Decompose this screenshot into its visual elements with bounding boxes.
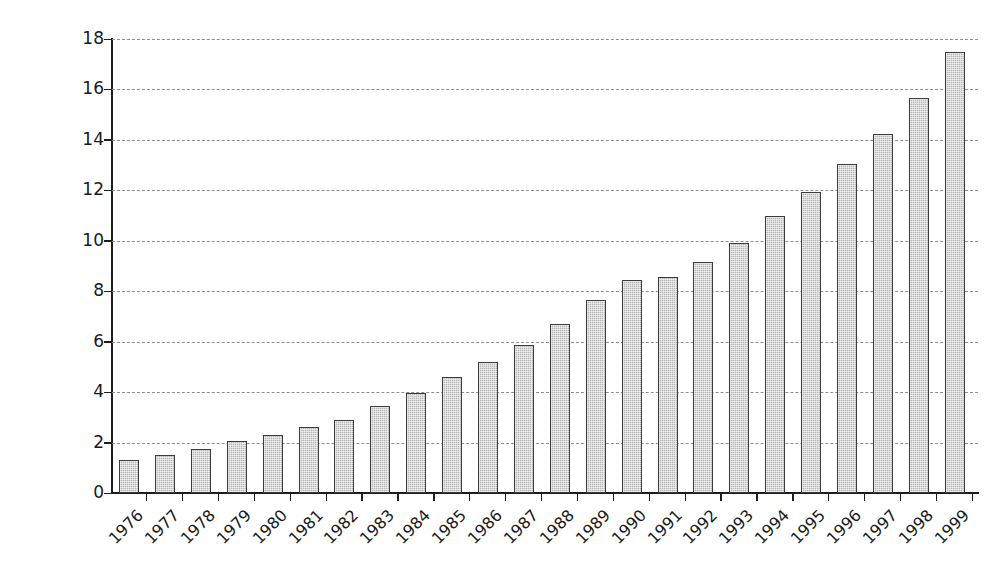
x-tick-mark-1988 [577, 493, 578, 501]
bar-1998[interactable] [909, 98, 929, 493]
x-tick-mark-1983 [397, 493, 398, 501]
bar-1993[interactable] [729, 243, 749, 493]
x-tick-mark-1995 [828, 493, 829, 501]
bar-1995[interactable] [801, 192, 821, 493]
bar-1982[interactable] [334, 420, 354, 493]
bar-1992[interactable] [693, 262, 713, 493]
y-tick-label-12: 12 [60, 181, 104, 198]
bar-1991[interactable] [658, 277, 678, 493]
x-tick-mark-1979 [254, 493, 255, 501]
bar-1980[interactable] [263, 435, 283, 493]
y-tick-mark-6 [104, 341, 112, 343]
y-tick-mark-4 [104, 392, 112, 394]
plot-area [112, 39, 978, 493]
x-tick-mark-1989 [613, 493, 614, 501]
bar-1987[interactable] [514, 345, 534, 493]
y-tick-mark-0 [104, 493, 112, 495]
y-axis-tick-labels: 024681012141618 [50, 0, 104, 573]
y-tick-mark-12 [104, 190, 112, 192]
x-tick-mark-1976 [146, 493, 147, 501]
y-tick-label-8: 8 [60, 282, 104, 299]
y-tick-label-0: 0 [60, 484, 104, 501]
x-tick-mark-1985 [469, 493, 470, 501]
x-tick-mark-1977 [182, 493, 183, 501]
y-tick-label-6: 6 [60, 333, 104, 350]
y-tick-mark-10 [104, 240, 112, 242]
bar-1990[interactable] [622, 280, 642, 493]
x-tick-mark-1999 [972, 493, 973, 501]
x-tick-mark-1980 [290, 493, 291, 501]
bar-1984[interactable] [406, 393, 426, 493]
bar-1985[interactable] [442, 377, 462, 493]
bar-1976[interactable] [119, 460, 139, 493]
y-tick-label-14: 14 [60, 131, 104, 148]
bar-1999[interactable] [945, 52, 965, 493]
y-tick-mark-8 [104, 291, 112, 293]
x-tick-mark-1992 [720, 493, 721, 501]
bar-1989[interactable] [586, 300, 606, 493]
x-tick-mark-1990 [649, 493, 650, 501]
y-tick-mark-16 [104, 89, 112, 91]
y-tick-label-2: 2 [60, 434, 104, 451]
x-tick-mark-1982 [361, 493, 362, 501]
y-tick-label-16: 16 [60, 80, 104, 97]
bar-1986[interactable] [478, 362, 498, 493]
y-tick-mark-18 [104, 39, 112, 41]
bar-1988[interactable] [550, 324, 570, 493]
bar-1977[interactable] [155, 455, 175, 493]
y-tick-mark-14 [104, 139, 112, 141]
bar-1979[interactable] [227, 441, 247, 493]
x-tick-mark-1997 [900, 493, 901, 501]
y-tick-label-4: 4 [60, 383, 104, 400]
bar-1978[interactable] [191, 449, 211, 493]
bar-chart-figure: Billions of liters per year 024681012141… [0, 0, 1001, 573]
y-tick-mark-2 [104, 442, 112, 444]
x-tick-mark-1993 [756, 493, 757, 501]
bar-1997[interactable] [873, 134, 893, 493]
bar-1983[interactable] [370, 406, 390, 493]
x-tick-mark-1981 [326, 493, 327, 501]
x-tick-mark-1984 [433, 493, 434, 501]
x-tick-mark-1996 [864, 493, 865, 501]
bar-1996[interactable] [837, 164, 857, 493]
x-tick-mark-1994 [792, 493, 793, 501]
y-tick-label-18: 18 [60, 30, 104, 47]
gridline-16 [112, 89, 978, 90]
x-tick-mark-1978 [218, 493, 219, 501]
bar-1994[interactable] [765, 216, 785, 493]
y-tick-label-10: 10 [60, 232, 104, 249]
gridline-14 [112, 140, 978, 141]
x-tick-mark-1998 [936, 493, 937, 501]
bar-1981[interactable] [299, 427, 319, 493]
x-tick-mark-1991 [685, 493, 686, 501]
x-tick-mark-1987 [541, 493, 542, 501]
x-tick-mark-1986 [505, 493, 506, 501]
gridline-18 [112, 39, 978, 40]
